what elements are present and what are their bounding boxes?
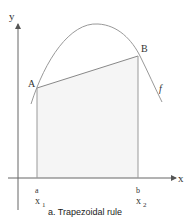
trapezoidal-diagram: y x A B f a x 1 b x 2 a. Trapezoidal rul… xyxy=(0,0,193,217)
diagram-canvas: y x A B f a x 1 b x 2 a. Trapezoidal rul… xyxy=(0,0,193,217)
x2-label: x xyxy=(136,195,141,206)
x-axis-label: x xyxy=(178,172,184,184)
point-a-label: A xyxy=(28,78,36,89)
x1-subscript: 1 xyxy=(42,201,46,209)
caption: a. Trapezoidal rule xyxy=(48,207,122,217)
bound-b-label: b xyxy=(136,186,140,195)
y-axis-label: y xyxy=(9,10,15,22)
trapezoid-area xyxy=(37,56,138,178)
bound-a-label: a xyxy=(35,186,39,195)
x1-label: x xyxy=(35,195,40,206)
x2-subscript: 2 xyxy=(143,201,147,209)
curve-f-label: f xyxy=(159,83,163,94)
point-b-label: B xyxy=(141,43,148,54)
